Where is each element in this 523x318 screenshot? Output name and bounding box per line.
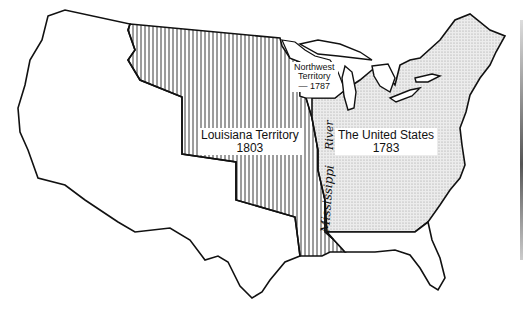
- northwest-year: — 1787: [294, 82, 335, 91]
- us-name: The United States: [338, 129, 434, 142]
- united-states-label: The United States 1783: [335, 128, 437, 155]
- river-label: River: [323, 120, 336, 150]
- louisiana-territory-label: Louisiana Territory 1803: [198, 128, 302, 155]
- louisiana-name: Louisiana Territory: [201, 129, 299, 142]
- florida-region: [327, 222, 445, 290]
- louisiana-year: 1803: [201, 142, 299, 155]
- us-territory-map: [0, 0, 523, 318]
- northwest-territory-label: Northwest Territory — 1787: [291, 62, 338, 92]
- us-year: 1783: [338, 142, 434, 155]
